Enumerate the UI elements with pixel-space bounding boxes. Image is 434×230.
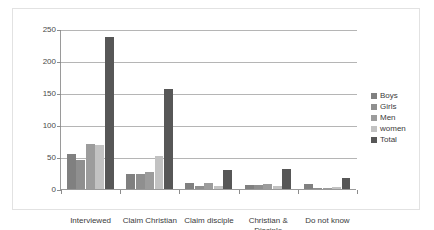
legend-item-girls[interactable]: Girls bbox=[371, 102, 429, 112]
legend-item-total[interactable]: Total bbox=[371, 135, 429, 145]
legend-swatch-icon bbox=[371, 115, 377, 121]
x-tick-label: Claim Christian bbox=[120, 216, 179, 226]
bar-boys-claim-christian bbox=[126, 174, 135, 189]
plot-area: InterviewedClaim ChristianClaim disciple… bbox=[60, 30, 356, 190]
x-tick-mark bbox=[61, 190, 62, 194]
bar-total-claim-christian bbox=[164, 89, 173, 189]
bar-women-interviewed bbox=[95, 145, 104, 189]
x-tick-label: Claim disciple bbox=[179, 216, 238, 226]
legend-swatch-icon bbox=[371, 93, 377, 99]
legend-label: Total bbox=[380, 136, 397, 144]
bar-group bbox=[120, 29, 179, 189]
bar-total-christian-disciple bbox=[282, 169, 291, 189]
legend-item-men[interactable]: Men bbox=[371, 113, 429, 123]
x-tick-label-line: Do not know bbox=[298, 216, 357, 226]
bar-men-claim-christian bbox=[145, 172, 154, 189]
bar-women-christian-disciple bbox=[273, 186, 282, 189]
bar-group bbox=[239, 29, 298, 189]
chart-screenshot: 050100150200250 InterviewedClaim Christi… bbox=[0, 0, 434, 230]
legend-label: Boys bbox=[380, 92, 398, 100]
y-tick-label: 200 bbox=[30, 58, 56, 66]
legend-item-boys[interactable]: Boys bbox=[371, 91, 429, 101]
bar-men-do-not-know bbox=[323, 188, 332, 189]
x-tick-label: Christian &Disciple bbox=[239, 216, 298, 230]
bar-women-claim-christian bbox=[155, 156, 164, 189]
legend-swatch-icon bbox=[371, 126, 377, 132]
bar-men-christian-disciple bbox=[263, 184, 272, 189]
bar-boys-claim-disciple bbox=[185, 183, 194, 189]
bar-group bbox=[179, 29, 238, 189]
legend-swatch-icon bbox=[371, 137, 377, 143]
bar-total-do-not-know bbox=[342, 178, 351, 189]
bar-girls-christian-disciple bbox=[254, 185, 263, 189]
y-tick-label: 100 bbox=[30, 122, 56, 130]
legend-label: women bbox=[380, 125, 406, 133]
bar-girls-claim-christian bbox=[136, 174, 145, 189]
x-tick-mark bbox=[357, 190, 358, 194]
bar-boys-do-not-know bbox=[304, 184, 313, 189]
y-tick-label: 150 bbox=[30, 90, 56, 98]
x-tick-label-line: Claim Christian bbox=[120, 216, 179, 226]
y-axis: 050100150200250 bbox=[28, 30, 56, 190]
x-tick-mark bbox=[298, 190, 299, 194]
bar-girls-do-not-know bbox=[313, 188, 322, 189]
chart-legend: BoysGirlsMenwomenTotal bbox=[371, 91, 429, 146]
x-tick-label-line: Christian & bbox=[239, 216, 298, 226]
legend-label: Girls bbox=[380, 103, 396, 111]
chart-frame: 050100150200250 InterviewedClaim Christi… bbox=[12, 8, 420, 210]
legend-item-women[interactable]: women bbox=[371, 124, 429, 134]
x-tick-mark bbox=[120, 190, 121, 194]
x-tick-label: Do not know bbox=[298, 216, 357, 226]
bar-girls-claim-disciple bbox=[195, 186, 204, 189]
x-tick-label-line: Interviewed bbox=[61, 216, 120, 226]
x-tick-label-line: Claim disciple bbox=[179, 216, 238, 226]
bar-group bbox=[298, 29, 357, 189]
y-tick-label: 50 bbox=[30, 154, 56, 162]
bar-men-interviewed bbox=[86, 144, 95, 189]
bar-boys-christian-disciple bbox=[245, 185, 254, 189]
bar-men-claim-disciple bbox=[204, 183, 213, 189]
x-tick-label: Interviewed bbox=[61, 216, 120, 226]
bar-boys-interviewed bbox=[67, 154, 76, 189]
y-tick-label: 250 bbox=[30, 26, 56, 34]
bar-total-interviewed bbox=[105, 37, 114, 189]
legend-label: Men bbox=[380, 114, 396, 122]
y-tick-label: 0 bbox=[30, 186, 56, 194]
bar-women-do-not-know bbox=[332, 187, 341, 189]
bar-girls-interviewed bbox=[76, 160, 85, 189]
legend-swatch-icon bbox=[371, 104, 377, 110]
x-tick-mark bbox=[179, 190, 180, 194]
x-tick-label-line: Disciple bbox=[239, 226, 298, 230]
bar-group bbox=[61, 29, 120, 189]
bar-women-claim-disciple bbox=[214, 186, 223, 189]
bar-total-claim-disciple bbox=[223, 170, 232, 189]
x-tick-mark bbox=[239, 190, 240, 194]
